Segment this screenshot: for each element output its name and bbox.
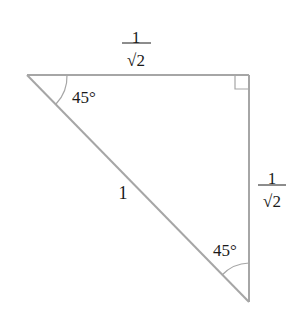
triangle-diagram: 1 √2 1 √2 1 45° 45° (0, 0, 302, 320)
angle-arc-bottom (222, 263, 249, 275)
angle-arc-top-left (56, 75, 67, 104)
right-angle-marker (235, 75, 249, 89)
top-side-numerator: 1 (132, 28, 141, 47)
right-side-denominator: √2 (263, 192, 281, 211)
angle-label-bottom: 45° (213, 241, 237, 260)
hypotenuse (27, 75, 249, 302)
angle-label-top-left: 45° (72, 88, 96, 107)
top-side-denominator: √2 (127, 51, 145, 70)
triangle-svg: 1 √2 1 √2 1 45° 45° (0, 0, 302, 320)
hypotenuse-label: 1 (119, 183, 128, 203)
